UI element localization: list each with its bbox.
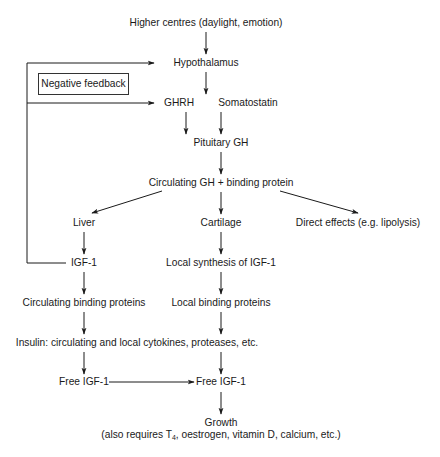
node-growth: Growth xyxy=(205,417,238,429)
node-higher-centres: Higher centres (daylight, emotion) xyxy=(130,17,283,29)
node-somatostatin: Somatostatin xyxy=(218,97,277,109)
node-growth-note: (also requires T4, oestrogen, vitamin D,… xyxy=(101,429,340,444)
node-free-igf1-left: Free IGF-1 xyxy=(59,376,109,388)
node-local-synthesis: Local synthesis of IGF-1 xyxy=(166,257,276,269)
node-direct-effects: Direct effects (e.g. lipolysis) xyxy=(296,217,420,229)
node-local-binding-proteins: Local binding proteins xyxy=(171,297,270,309)
node-hypothalamus: Hypothalamus xyxy=(173,57,238,69)
negative-feedback-label: Negative feedback xyxy=(38,73,129,95)
arrow-circulating-to-liver xyxy=(92,191,162,213)
growth-note-post: , oestrogen, vitamin D, calcium, etc.) xyxy=(176,429,341,440)
node-igf1: IGF-1 xyxy=(71,257,97,269)
node-circulating-gh: Circulating GH + binding protein xyxy=(149,177,294,189)
node-pituitary-gh: Pituitary GH xyxy=(194,137,249,149)
node-ghrh: GHRH xyxy=(164,97,194,109)
growth-note-pre: (also requires T xyxy=(101,429,172,440)
node-insulin-modulators: Insulin: circulating and local cytokines… xyxy=(16,337,258,349)
node-free-igf1-right: Free IGF-1 xyxy=(196,376,246,388)
node-cartilage: Cartilage xyxy=(201,217,242,229)
node-circulating-binding-proteins: Circulating binding proteins xyxy=(23,297,146,309)
arrow-circulating-to-direct xyxy=(280,191,358,213)
node-liver: Liver xyxy=(73,217,95,229)
